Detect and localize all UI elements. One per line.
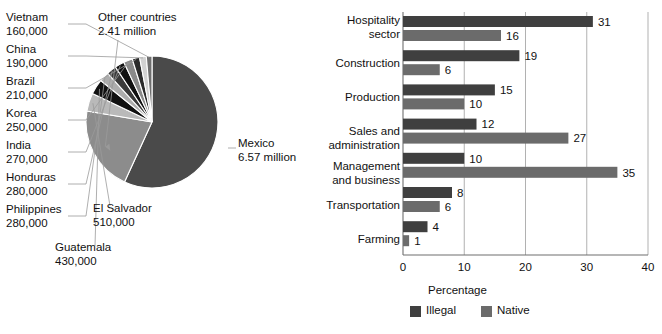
pie-callout-mexico: Mexico 6.57 million — [238, 136, 296, 164]
pie-callout-guatemala-value: 430,000 — [55, 254, 111, 268]
pie-callout-mexico-name: Mexico — [238, 136, 296, 150]
bar-value-label: 19 — [524, 50, 537, 62]
pie-callout-guatemala-name: Guatemala — [55, 240, 111, 254]
pie-callout-korea-name: Korea — [6, 106, 48, 120]
pie-callout-mexico-value: 6.57 million — [238, 150, 296, 164]
bar-category-hospitality-line1: Hospitality — [300, 14, 400, 28]
bar-native-construction — [403, 64, 440, 75]
bar-native-production — [403, 98, 464, 109]
legend-label-illegal: Illegal — [426, 304, 456, 316]
bar-category-sales-admin-line1: Sales and — [300, 125, 400, 139]
pie-callout-honduras-name: Honduras — [6, 170, 56, 184]
bar-native-hospitality-sector — [403, 30, 501, 41]
bar-axis-title-percentage: Percentage — [428, 284, 487, 296]
pie-callout-india-name: India — [6, 138, 48, 152]
bar-xtick-label-20: 20 — [519, 261, 532, 273]
bar-xtick-label-30: 30 — [580, 261, 593, 273]
bar-category-transportation-line1: Transportation — [300, 199, 400, 213]
pie-callout-honduras-value: 280,000 — [6, 184, 56, 198]
bar-category-management-line2: and business — [300, 174, 400, 188]
pie-callout-vietnam-value: 160,000 — [6, 24, 48, 38]
pie-callout-china: China 190,000 — [6, 42, 48, 70]
bar-category-hospitality: Hospitality sector — [300, 14, 400, 41]
bar-value-label: 8 — [457, 187, 463, 199]
pie-callout-korea: Korea 250,000 — [6, 106, 48, 134]
bar-chart-panel: 31161961510122710358641010203040 Hospita… — [300, 0, 662, 334]
pie-callout-honduras: Honduras 280,000 — [6, 170, 56, 198]
bar-category-construction: Construction — [300, 57, 400, 71]
pie-callout-korea-value: 250,000 — [6, 120, 48, 134]
pie-callout-brazil: Brazil 210,000 — [6, 74, 48, 102]
bar-value-label: 31 — [598, 16, 611, 28]
bar-illegal-farming — [403, 221, 428, 232]
bar-value-label: 6 — [445, 201, 451, 213]
pie-callout-china-name: China — [6, 42, 48, 56]
bar-native-management-and-business — [403, 167, 617, 178]
pie-callout-el-salvador-value: 510,000 — [93, 215, 152, 229]
bar-category-construction-line1: Construction — [300, 57, 400, 71]
bar-xtick-label-10: 10 — [458, 261, 471, 273]
pie-callout-vietnam: Vietnam 160,000 — [6, 10, 48, 38]
bar-illegal-construction — [403, 50, 519, 61]
bar-native-transportation — [403, 201, 440, 212]
figure-root: Vietnam 160,000 China 190,000 Brazil 210… — [0, 0, 662, 334]
pie-callout-brazil-value: 210,000 — [6, 88, 48, 102]
legend-swatch-illegal — [410, 306, 421, 317]
bar-category-sales-admin-line2: administration — [300, 139, 400, 153]
bar-category-hospitality-line2: sector — [300, 28, 400, 42]
bar-category-production: Production — [300, 91, 400, 105]
legend-swatch-native — [481, 306, 492, 317]
pie-callout-other-countries: Other countries 2.41 million — [98, 10, 177, 38]
bar-value-label: 35 — [622, 167, 635, 179]
bar-category-farming-line1: Farming — [300, 233, 400, 247]
bar-category-management-line1: Management — [300, 160, 400, 174]
bar-xtick-label-0: 0 — [400, 261, 406, 273]
pie-callout-philippines: Philippines 280,000 — [6, 202, 62, 230]
bar-native-sales-and-administration — [403, 133, 568, 144]
pie-callout-el-salvador: El Salvador 510,000 — [93, 201, 152, 229]
bar-illegal-management-and-business — [403, 153, 464, 164]
bar-value-label: 16 — [506, 30, 519, 42]
bar-category-sales-admin: Sales and administration — [300, 125, 400, 152]
pie-callout-india: India 270,000 — [6, 138, 48, 166]
bar-value-label: 10 — [469, 98, 482, 110]
bar-category-transportation: Transportation — [300, 199, 400, 213]
legend-label-native: Native — [497, 304, 530, 316]
bar-xtick-label-40: 40 — [642, 261, 655, 273]
pie-callout-guatemala: Guatemala 430,000 — [55, 240, 111, 268]
bar-value-label: 6 — [445, 64, 451, 76]
pie-callout-brazil-name: Brazil — [6, 74, 48, 88]
leader-china — [68, 56, 143, 58]
bar-native-farming — [403, 235, 409, 246]
pie-callout-other-countries-name: Other countries — [98, 10, 177, 24]
bar-illegal-transportation — [403, 187, 452, 198]
pie-callout-vietnam-name: Vietnam — [6, 10, 48, 24]
pie-callout-philippines-name: Philippines — [6, 202, 62, 216]
pie-callout-el-salvador-name: El Salvador — [93, 201, 152, 215]
bar-category-production-line1: Production — [300, 91, 400, 105]
pie-callout-china-value: 190,000 — [6, 56, 48, 70]
bar-value-label: 4 — [433, 221, 440, 233]
bar-illegal-sales-and-administration — [403, 119, 477, 130]
bar-illegal-production — [403, 84, 495, 95]
bar-illegal-hospitality-sector — [403, 16, 593, 27]
pie-chart-panel: Vietnam 160,000 China 190,000 Brazil 210… — [0, 0, 300, 334]
pie-callout-india-value: 270,000 — [6, 152, 48, 166]
bar-value-label: 12 — [482, 118, 495, 130]
bar-value-label: 10 — [469, 153, 482, 165]
bar-value-label: 15 — [500, 84, 513, 96]
bar-value-label: 1 — [414, 235, 420, 247]
bar-category-farming: Farming — [300, 233, 400, 247]
pie-callout-other-countries-value: 2.41 million — [98, 24, 177, 38]
bar-category-management: Management and business — [300, 160, 400, 187]
bar-value-label: 27 — [573, 132, 586, 144]
pie-callout-philippines-value: 280,000 — [6, 216, 62, 230]
